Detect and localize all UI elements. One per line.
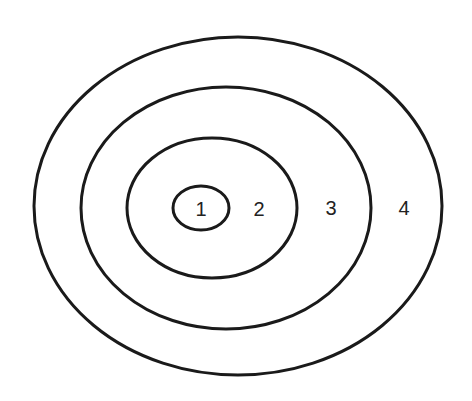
ring-label-4: 4 xyxy=(398,197,409,219)
concentric-rings-diagram: 1 2 3 4 xyxy=(0,0,472,401)
ring-label-3: 3 xyxy=(325,197,336,219)
rings-canvas: 1 2 3 4 xyxy=(0,0,472,401)
ring-label-2: 2 xyxy=(253,198,264,220)
ring-label-1: 1 xyxy=(195,198,206,220)
ring-2 xyxy=(127,138,297,278)
